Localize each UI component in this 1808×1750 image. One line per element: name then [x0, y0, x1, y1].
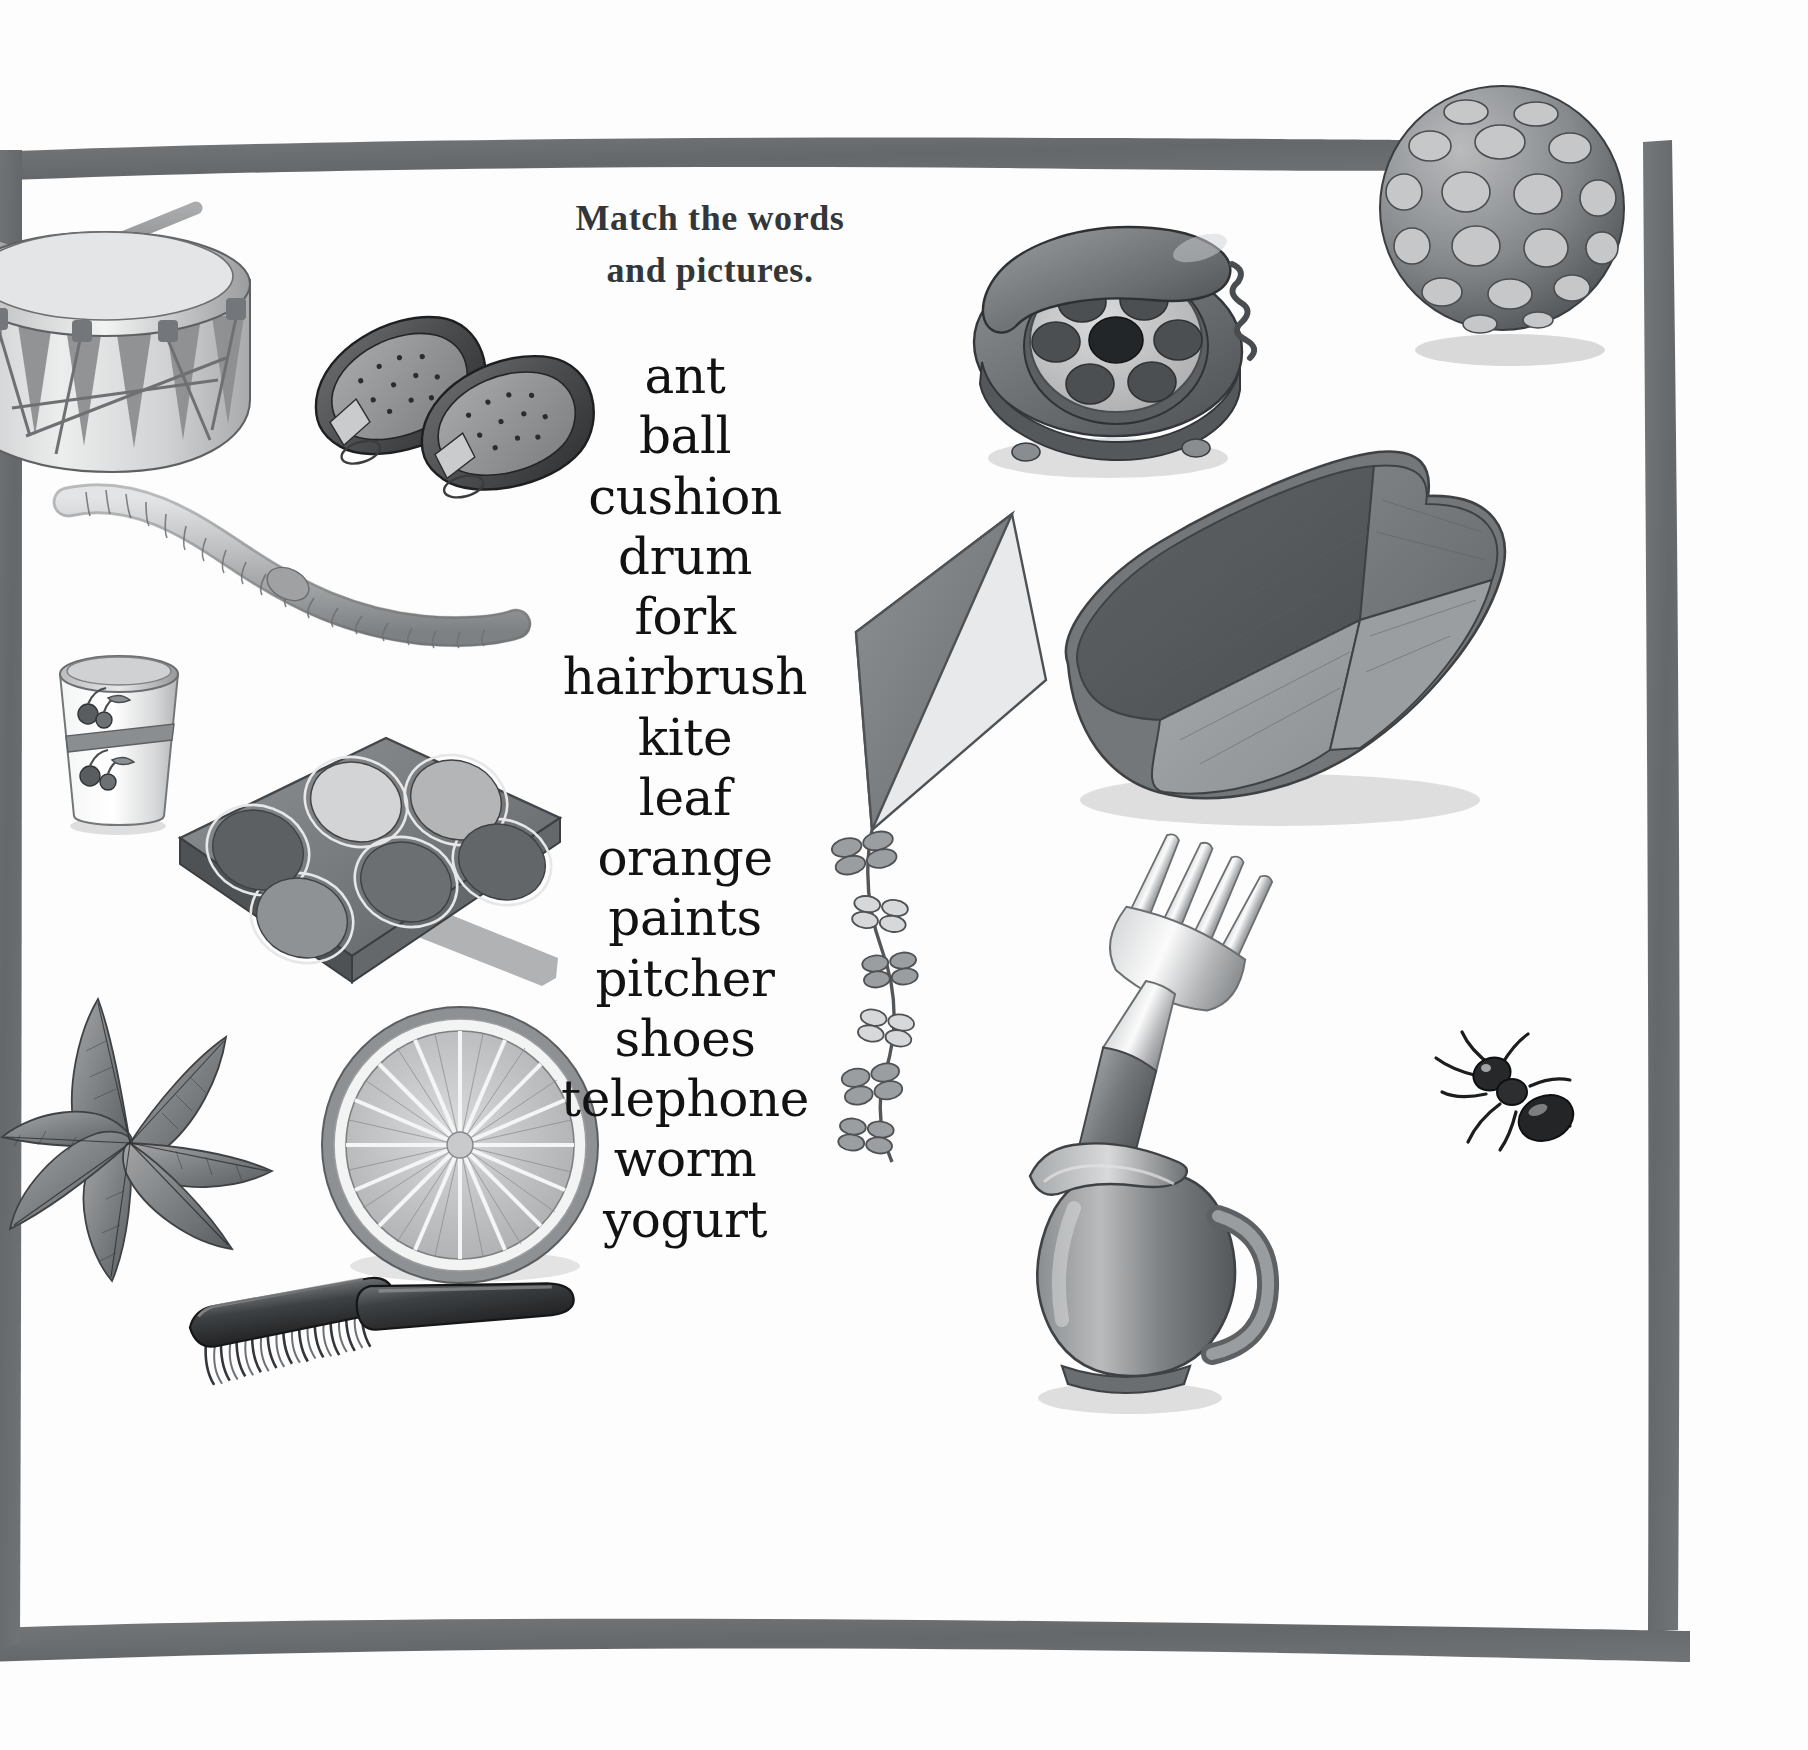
illustration-ball [1370, 80, 1650, 370]
word-item[interactable]: drum [540, 527, 830, 587]
word-item[interactable]: shoes [540, 1009, 830, 1069]
worksheet-page: Match the words and pictures. ant ball c… [0, 0, 1808, 1750]
word-item[interactable]: pitcher [540, 949, 830, 1009]
word-item[interactable]: cushion [540, 467, 830, 527]
illustration-hairbrush [165, 1270, 615, 1430]
page-title: Match the words and pictures. [520, 192, 900, 296]
word-item[interactable]: yogurt [540, 1190, 830, 1250]
page-title-line2: and pictures. [520, 244, 900, 296]
illustration-leaf [0, 985, 290, 1285]
illustration-cushion [1030, 420, 1530, 840]
word-item[interactable]: paints [540, 888, 830, 948]
word-item[interactable]: worm [540, 1129, 830, 1189]
word-item[interactable]: hairbrush [540, 647, 830, 707]
word-item[interactable]: kite [540, 708, 830, 768]
illustration-ant [1400, 1020, 1590, 1170]
word-item[interactable]: leaf [540, 768, 830, 828]
word-item[interactable]: orange [540, 828, 830, 888]
page-title-line1: Match the words [576, 198, 845, 238]
word-item[interactable]: fork [540, 587, 830, 647]
illustration-paints [170, 690, 570, 1000]
word-list: ant ball cushion drum fork hairbrush kit… [540, 346, 830, 1250]
word-item[interactable]: ant [540, 346, 830, 406]
illustration-drum [0, 168, 290, 478]
word-item[interactable]: ball [540, 406, 830, 466]
word-item[interactable]: telephone [540, 1069, 830, 1129]
illustration-pitcher [970, 1090, 1300, 1420]
